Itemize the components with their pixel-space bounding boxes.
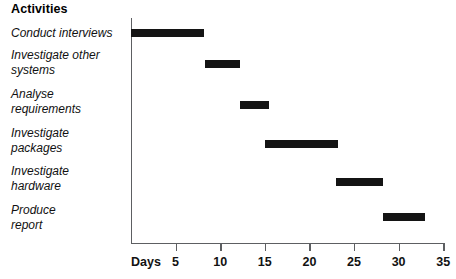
x-axis-tick-label: 35 (436, 255, 450, 269)
x-axis-tick-label: 25 (347, 255, 361, 269)
activity-label-4: Investigate hardware (11, 164, 129, 193)
gantt-bar (265, 140, 338, 148)
gantt-bar (131, 29, 204, 37)
activity-label-2: Analyse requirements (11, 87, 129, 116)
gantt-bar (205, 60, 240, 68)
x-axis-tick (309, 243, 310, 251)
x-axis-line (131, 243, 443, 244)
x-axis-tick-label: 5 (172, 255, 179, 269)
gantt-bar (240, 101, 269, 109)
x-axis-tick (265, 243, 266, 251)
x-axis-tick (399, 243, 400, 251)
x-axis-tick (220, 243, 221, 251)
x-axis-tick (354, 243, 355, 251)
y-axis-line (131, 18, 132, 244)
gantt-bar (383, 213, 426, 221)
x-axis-title: Days (131, 255, 161, 269)
x-axis-tick-label: 20 (302, 255, 316, 269)
x-axis-tick-label: 10 (213, 255, 227, 269)
x-axis-tick-label: 30 (392, 255, 406, 269)
x-axis-tick (176, 243, 177, 251)
activity-label-3: Investigate packages (11, 126, 129, 155)
activity-label-0: Conduct interviews (11, 26, 129, 41)
activity-label-5: Produce report (11, 203, 129, 232)
x-axis-tick-label: 15 (258, 255, 272, 269)
gantt-chart: Activities Conduct interviews Investigat… (0, 0, 456, 279)
x-axis-tick (443, 243, 444, 251)
activity-label-1: Investigate other systems (11, 48, 129, 77)
page-title: Activities (11, 2, 68, 16)
gantt-bar (336, 178, 382, 186)
